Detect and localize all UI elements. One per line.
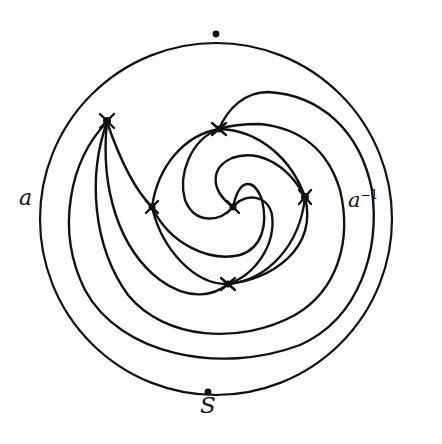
arc-outer-3 xyxy=(106,122,228,294)
vertex-markers xyxy=(100,114,311,290)
top-boundary-point xyxy=(213,31,220,38)
arc-top-right xyxy=(219,129,305,197)
arc-inner-curl-left xyxy=(183,129,233,219)
arc-diagonal xyxy=(107,122,152,207)
label-a: a xyxy=(19,185,32,210)
label-s: S xyxy=(200,392,216,418)
label-a-inverse-exponent: −1 xyxy=(361,188,379,202)
spiral-arc-diagram: a a−1 S xyxy=(0,0,442,444)
arc-bottom-right xyxy=(228,197,307,284)
label-a-inverse: a−1 xyxy=(348,188,378,212)
label-a-inverse-base: a xyxy=(348,188,361,212)
diagram-canvas xyxy=(0,0,442,444)
arc-right-down xyxy=(228,197,305,284)
